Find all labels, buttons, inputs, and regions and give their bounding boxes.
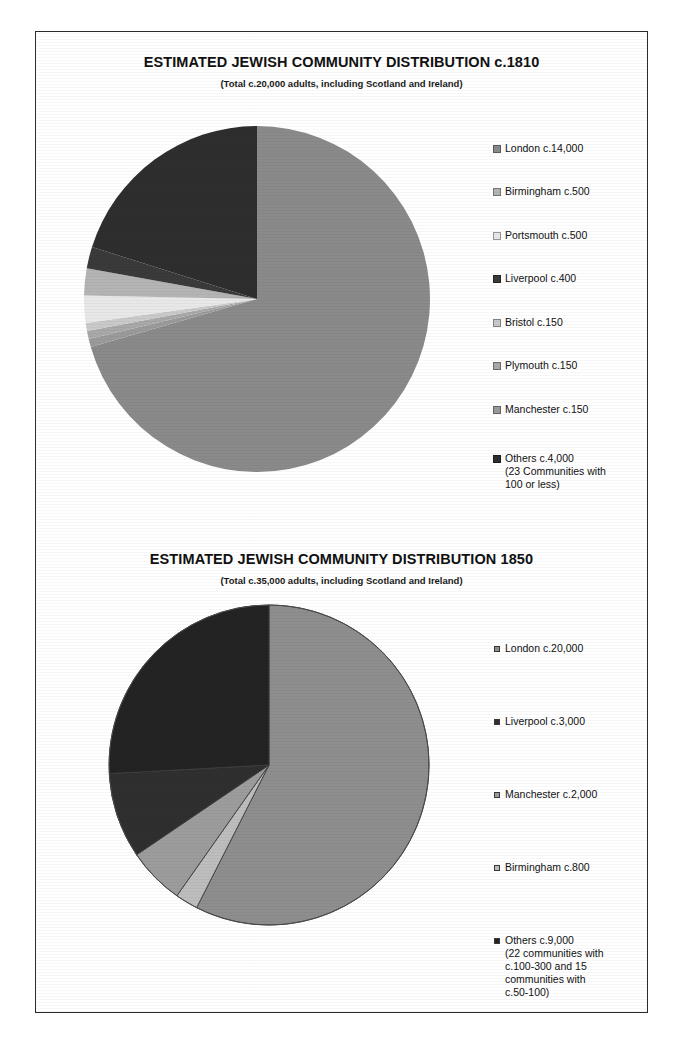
legend-label: Portsmouth c.500 — [505, 229, 587, 242]
pie-svg — [106, 602, 436, 932]
legend-item: Others c.4,000(23 Communities with100 or… — [493, 452, 606, 491]
legend-label: Birmingham c.800 — [505, 861, 590, 874]
legend-sublabel: c.50-100) — [505, 986, 604, 999]
legend-label: Others c.4,000(23 Communities with100 or… — [505, 452, 606, 491]
legend-sublabel: communities with — [505, 973, 604, 986]
chart-1850-subtitle: (Total c.35,000 adults, including Scotla… — [36, 575, 647, 586]
legend-label: Manchester c.150 — [505, 403, 588, 416]
legend-swatch-icon — [493, 937, 501, 945]
legend-item: Portsmouth c.500 — [493, 229, 587, 242]
pie-chart-1850 — [106, 602, 436, 932]
legend-label: Bristol c.150 — [505, 316, 563, 329]
legend-swatch-icon — [493, 232, 501, 240]
legend-swatch-icon — [493, 319, 501, 327]
legend-item: Liverpool c.3,000 — [493, 715, 585, 728]
legend-label: London c.14,000 — [505, 142, 583, 155]
chart-panel-1850: ESTIMATED JEWISH COMMUNITY DISTRIBUTION … — [36, 524, 647, 1014]
legend-item: Others c.9,000(22 communities withc.100-… — [493, 934, 604, 999]
legend-label: Manchester c.2,000 — [505, 788, 597, 801]
chart-1850-title: ESTIMATED JEWISH COMMUNITY DISTRIBUTION … — [36, 551, 647, 567]
chart-1810-title: ESTIMATED JEWISH COMMUNITY DISTRIBUTION … — [36, 54, 647, 70]
legend-swatch-icon — [493, 645, 501, 653]
legend-swatch-icon — [493, 791, 501, 799]
pie-chart-1810 — [83, 105, 433, 495]
legend-item: London c.14,000 — [493, 142, 583, 155]
legend-swatch-icon — [493, 864, 501, 872]
legend-1810: London c.14,000Birmingham c.500Portsmout… — [493, 102, 653, 502]
legend-label: Others c.9,000(22 communities withc.100-… — [505, 934, 604, 999]
chart-panel-1810: ESTIMATED JEWISH COMMUNITY DISTRIBUTION … — [36, 32, 647, 524]
legend-sublabel: (23 Communities with — [505, 465, 606, 478]
legend-swatch-icon — [493, 718, 501, 726]
legend-item: Liverpool c.400 — [493, 272, 576, 285]
pie-slice — [109, 605, 269, 774]
legend-swatch-icon — [493, 275, 501, 283]
legend-label: London c.20,000 — [505, 642, 583, 655]
legend-swatch-icon — [493, 455, 501, 463]
legend-swatch-icon — [493, 145, 501, 153]
legend-label: Plymouth c.150 — [505, 359, 577, 372]
legend-sublabel: 100 or less) — [505, 478, 606, 491]
legend-swatch-icon — [493, 188, 501, 196]
legend-item: Plymouth c.150 — [493, 359, 577, 372]
legend-item: London c.20,000 — [493, 642, 583, 655]
legend-label: Birmingham c.500 — [505, 185, 590, 198]
legend-swatch-icon — [493, 406, 501, 414]
page-root: ESTIMATED JEWISH COMMUNITY DISTRIBUTION … — [0, 0, 681, 1050]
legend-item: Manchester c.150 — [493, 403, 588, 416]
figure-frame: ESTIMATED JEWISH COMMUNITY DISTRIBUTION … — [35, 31, 648, 1013]
legend-label: Liverpool c.400 — [505, 272, 576, 285]
chart-1810-subtitle: (Total c.20,000 adults, including Scotla… — [36, 78, 647, 89]
legend-sublabel: c.100-300 and 15 — [505, 960, 604, 973]
legend-swatch-icon — [493, 362, 501, 370]
legend-item: Birmingham c.500 — [493, 185, 590, 198]
legend-item: Bristol c.150 — [493, 316, 563, 329]
legend-1850: London c.20,000Liverpool c.3,000Manchest… — [493, 612, 653, 1012]
legend-item: Birmingham c.800 — [493, 861, 590, 874]
legend-label: Liverpool c.3,000 — [505, 715, 585, 728]
pie-svg — [83, 105, 433, 495]
legend-sublabel: (22 communities with — [505, 947, 604, 960]
legend-item: Manchester c.2,000 — [493, 788, 597, 801]
